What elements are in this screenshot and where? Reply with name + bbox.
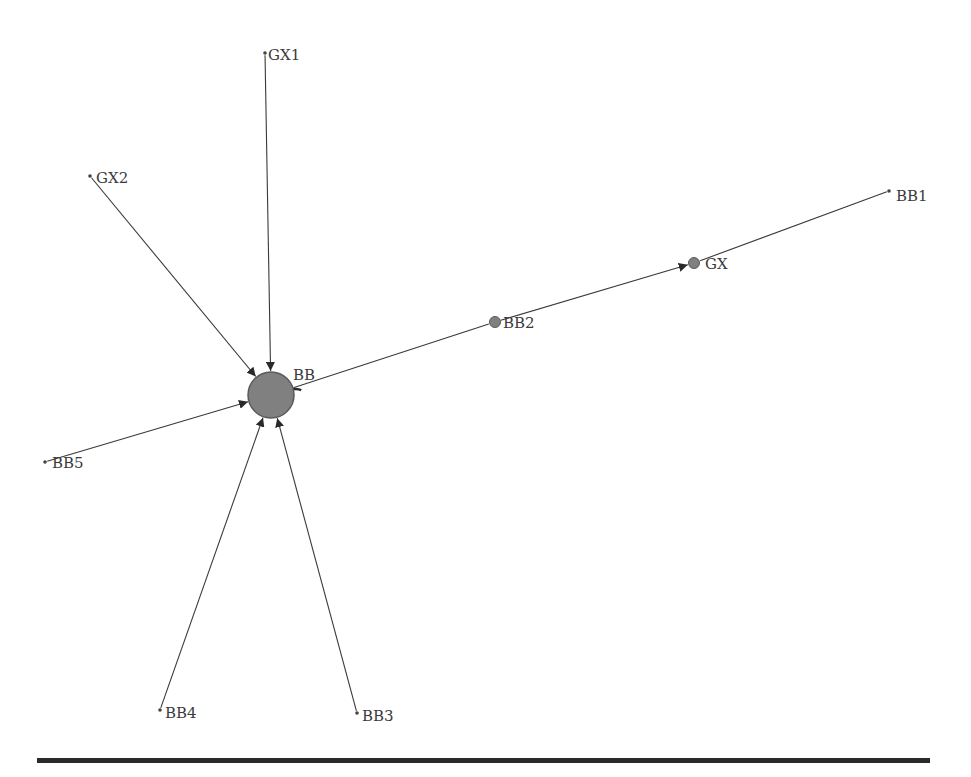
edge-bb2-to-gx	[501, 265, 688, 320]
node-gx1	[263, 51, 267, 55]
node-gx2	[88, 174, 92, 178]
node-label-gx: GX	[705, 255, 728, 273]
edge-bb3-to-bb	[277, 418, 356, 711]
node-label-bb3: BB3	[362, 707, 394, 725]
node-label-bb4: BB4	[165, 704, 197, 722]
nodes-layer	[43, 51, 891, 715]
node-label-bb2: BB2	[503, 314, 535, 332]
edge-bb4-to-bb	[161, 418, 263, 708]
node-label-bb1: BB1	[896, 187, 928, 205]
edge-bb5-to-bb	[47, 402, 248, 462]
edges-layer	[47, 55, 887, 710]
node-bb1	[887, 189, 891, 193]
bottom-divider	[37, 758, 930, 763]
network-diagram: BBGX1GX2BB1GXBB2BB5BB4BB3	[0, 0, 971, 777]
edge-gx2-to-bb	[91, 178, 255, 377]
node-label-gx2: GX2	[96, 169, 128, 187]
node-label-bb5: BB5	[52, 454, 84, 472]
node-bb5	[43, 460, 47, 464]
node-gx	[689, 258, 700, 269]
node-label-gx1: GX1	[268, 46, 300, 64]
edge-bb-to-bb2	[293, 324, 488, 388]
edge-gx1-to-bb	[265, 55, 271, 371]
node-bb2	[490, 317, 501, 328]
node-bb3	[355, 711, 359, 715]
edge-bb1-to-gx	[700, 192, 887, 261]
labels-layer: BBGX1GX2BB1GXBB2BB5BB4BB3	[52, 46, 928, 725]
node-bb	[248, 372, 294, 418]
node-bb4	[158, 708, 162, 712]
node-label-bb: BB	[293, 366, 315, 384]
